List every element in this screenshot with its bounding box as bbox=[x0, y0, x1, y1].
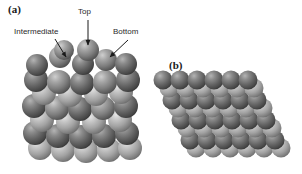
figure-root: (a) (b) Intermediate Top Bottom bbox=[0, 0, 302, 174]
panel-a-row-1b bbox=[24, 68, 140, 95]
panel-a-row-5 bbox=[23, 121, 139, 149]
panel-b-terrace-1 bbox=[154, 71, 264, 98]
atom-bottom bbox=[95, 49, 117, 71]
panel-a-callout-arrows bbox=[55, 20, 128, 57]
callout-label-bottom: Bottom bbox=[113, 27, 138, 37]
atom-surface-right bbox=[115, 53, 137, 75]
panel-a-row-3 bbox=[22, 94, 138, 121]
arrow-bottom bbox=[110, 40, 128, 57]
arrow-intermediate bbox=[55, 39, 66, 57]
panel-a-row-2 bbox=[32, 80, 133, 107]
panel-b-terrace-3 bbox=[172, 111, 282, 138]
atom-top-neighbour bbox=[54, 40, 74, 60]
atom-intermediate bbox=[49, 46, 71, 68]
callout-label-intermediate: Intermediate bbox=[14, 27, 58, 37]
atom-top bbox=[77, 39, 99, 61]
panel-a-row-6-back bbox=[28, 136, 142, 163]
panel-a-row-4 bbox=[30, 108, 132, 134]
panel-a-label: (a) bbox=[8, 3, 21, 15]
atom-surface-left bbox=[26, 54, 48, 76]
panel-b-label: (b) bbox=[169, 59, 182, 71]
atom-terrace bbox=[72, 53, 94, 75]
panel-b-terrace-4 bbox=[181, 131, 291, 158]
panel-b-terrace-2 bbox=[163, 91, 273, 118]
panel-a-surface-row-top bbox=[26, 39, 137, 76]
callout-label-top: Top bbox=[78, 7, 91, 17]
